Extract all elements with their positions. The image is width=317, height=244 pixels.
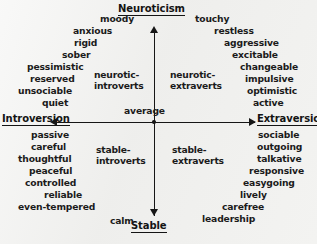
quadrant-label-line1: neurotic- [170, 70, 222, 81]
trait-word: controlled [25, 178, 76, 187]
axis-midpoint-average-label: average [124, 106, 165, 115]
trait-word: anxious [73, 26, 112, 35]
trait-word: active [253, 98, 284, 107]
trait-word: outgoing [257, 142, 302, 151]
trait-word: touchy [195, 14, 229, 23]
quadrant-label-line2: extraverts [170, 81, 222, 92]
trait-word: optimistic [247, 86, 297, 95]
trait-word: responsive [249, 166, 304, 175]
quadrant-label-line1: stable- [172, 145, 224, 156]
trait-word: even-tempered [18, 202, 95, 211]
trait-word: sociable [258, 130, 299, 139]
trait-word: impulsive [245, 74, 293, 83]
quadrant-label-neurotic-introverts: neurotic- introverts [94, 70, 144, 91]
quadrant-label-stable-extraverts: stable- extraverts [172, 145, 224, 166]
trait-word: passive [31, 130, 69, 139]
extraversion-arrow-right-icon [249, 118, 256, 126]
axis-pole-extraversion: Extraversion [257, 114, 317, 126]
trait-word: rigid [74, 38, 97, 47]
trait-word: talkative [257, 154, 301, 163]
eysenck-personality-diagram: Neuroticism Stable Introversion Extraver… [0, 0, 317, 244]
axis-pole-stable: Stable [131, 221, 167, 233]
trait-word: changeable [240, 62, 298, 71]
quadrant-label-line1: neurotic- [94, 70, 144, 81]
trait-word: thoughtful [18, 154, 71, 163]
trait-word: aggressive [224, 38, 279, 47]
trait-word: sober [62, 50, 90, 59]
trait-word: lively [240, 190, 267, 199]
quadrant-label-line2: extraverts [172, 156, 224, 167]
vertical-axis-line [154, 32, 155, 216]
trait-word: unsociable [18, 86, 72, 95]
axis-pole-introversion: Introversion [2, 114, 70, 126]
trait-word: peaceful [29, 166, 72, 175]
trait-word: reliable [44, 190, 82, 199]
quadrant-label-line2: introverts [94, 81, 144, 92]
trait-word: restless [214, 26, 254, 35]
trait-word: leadership [202, 214, 255, 223]
trait-word: calm [110, 216, 134, 225]
stable-arrow-down-icon [150, 209, 158, 216]
trait-word: moody [100, 14, 134, 23]
quadrant-label-line2: introverts [96, 156, 146, 167]
trait-word: excitable [232, 50, 278, 59]
axis-origin-marker [152, 120, 156, 124]
neuroticism-arrow-up-icon [150, 26, 158, 33]
trait-word: reserved [30, 74, 75, 83]
horizontal-axis-line [57, 122, 255, 123]
quadrant-label-neurotic-extraverts: neurotic- extraverts [170, 70, 222, 91]
trait-word: quiet [42, 98, 68, 107]
trait-word: pessimistic [27, 62, 83, 71]
trait-word: carefree [222, 202, 264, 211]
quadrant-label-stable-introverts: stable- introverts [96, 145, 146, 166]
quadrant-label-line1: stable- [96, 145, 146, 156]
trait-word: easygoing [243, 178, 295, 187]
trait-word: careful [31, 142, 66, 151]
